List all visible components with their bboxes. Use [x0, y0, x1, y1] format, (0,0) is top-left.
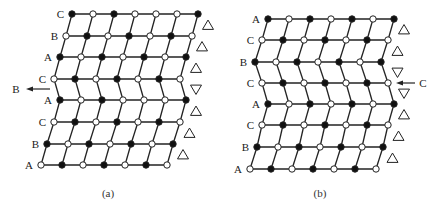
- atom-open: [80, 162, 86, 168]
- atom-filled: [322, 80, 328, 86]
- atom-open: [164, 162, 170, 168]
- atom-open: [189, 33, 195, 39]
- atom-filled: [380, 144, 386, 150]
- atom-open: [107, 141, 113, 147]
- atom-filled: [322, 37, 328, 43]
- atom-open: [120, 97, 126, 103]
- atom-open: [78, 54, 84, 60]
- atom-open: [275, 144, 281, 150]
- atom-filled: [349, 16, 355, 22]
- atom-open: [373, 166, 379, 172]
- atom-filled: [156, 119, 162, 125]
- atom-open: [51, 119, 57, 125]
- atom-filled: [72, 119, 78, 125]
- atom-open: [370, 16, 376, 22]
- atom-open: [174, 11, 180, 17]
- atom-open: [301, 37, 307, 43]
- layer-label: A: [252, 13, 260, 25]
- atom-open: [51, 76, 57, 82]
- atom-open: [357, 59, 363, 65]
- arrow-left-icon: [396, 81, 403, 86]
- atom-filled: [268, 166, 274, 172]
- atom-filled: [170, 141, 176, 147]
- atom-filled: [307, 101, 313, 107]
- layer-label: C: [39, 116, 46, 128]
- atom-filled: [99, 54, 105, 60]
- atom-filled: [352, 166, 358, 172]
- triangle-up-icon: [191, 63, 202, 72]
- triangle-down-icon: [191, 85, 202, 94]
- arrow-left-icon: [26, 87, 33, 92]
- atom-filled: [364, 122, 370, 128]
- atom-filled: [294, 59, 300, 65]
- layer-label: A: [44, 94, 52, 106]
- atom-filled: [280, 37, 286, 43]
- atom-filled: [310, 166, 316, 172]
- atom-open: [273, 59, 279, 65]
- atom-open: [301, 80, 307, 86]
- atom-open: [289, 166, 295, 172]
- atom-filled: [111, 11, 117, 17]
- layer-label: B: [240, 56, 247, 68]
- atom-open: [317, 144, 323, 150]
- atom-filled: [307, 16, 313, 22]
- layer-label: A: [25, 159, 33, 171]
- atom-open: [177, 76, 183, 82]
- atom-open: [385, 37, 391, 43]
- panel-a: CBACACBAB(a): [12, 8, 213, 200]
- triangle-up-icon: [393, 131, 404, 140]
- atom-filled: [254, 144, 260, 150]
- triangle-up-icon: [178, 150, 189, 159]
- atom-open: [331, 166, 337, 172]
- atom-filled: [265, 101, 271, 107]
- atom-filled: [57, 97, 63, 103]
- layer-label: C: [57, 8, 64, 20]
- atom-filled: [391, 101, 397, 107]
- panel-b: ACBCACBAC(b): [234, 13, 427, 200]
- layer-label: B: [242, 141, 249, 153]
- layer-label: A: [234, 163, 242, 175]
- atom-open: [132, 11, 138, 17]
- layer-label: C: [39, 73, 46, 85]
- triangle-up-icon: [203, 20, 214, 29]
- panel-caption: (a): [102, 187, 115, 200]
- atom-filled: [252, 59, 258, 65]
- atom-open: [343, 122, 349, 128]
- atom-open: [153, 11, 159, 17]
- atom-open: [370, 101, 376, 107]
- atom-filled: [364, 80, 370, 86]
- layer-label: C: [247, 34, 254, 46]
- atom-filled: [336, 59, 342, 65]
- atom-open: [162, 97, 168, 103]
- atom-filled: [141, 54, 147, 60]
- atom-filled: [378, 59, 384, 65]
- atom-open: [359, 144, 365, 150]
- atom-open: [122, 162, 128, 168]
- layer-label: C: [247, 119, 254, 131]
- atom-filled: [101, 162, 107, 168]
- layer-label: A: [44, 51, 52, 63]
- triangle-up-icon: [191, 106, 202, 115]
- triangle-down-icon: [399, 89, 410, 98]
- atom-open: [259, 37, 265, 43]
- atom-open: [65, 141, 71, 147]
- layer-label: B: [51, 30, 58, 42]
- atom-open: [343, 80, 349, 86]
- atom-filled: [322, 122, 328, 128]
- atom-open: [63, 33, 69, 39]
- triangle-down-icon: [392, 68, 403, 77]
- atom-open: [385, 122, 391, 128]
- atom-filled: [114, 119, 120, 125]
- atom-open: [301, 122, 307, 128]
- atom-open: [328, 101, 334, 107]
- atom-open: [149, 141, 155, 147]
- atom-open: [177, 119, 183, 125]
- lattice-diagram: CBACACBAB(a)ACBCACBAC(b): [0, 0, 437, 210]
- atom-open: [259, 80, 265, 86]
- triangle-up-icon: [197, 42, 208, 51]
- atom-open: [147, 33, 153, 39]
- atom-filled: [183, 54, 189, 60]
- atom-open: [38, 162, 44, 168]
- atom-filled: [72, 76, 78, 82]
- atom-open: [328, 16, 334, 22]
